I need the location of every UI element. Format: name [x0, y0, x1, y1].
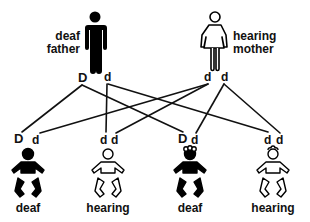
child2-label: hearing: [78, 202, 138, 215]
child3-label: deaf: [160, 202, 220, 215]
child4-label: hearing: [243, 202, 303, 215]
mother-label: hearing mother: [233, 30, 303, 56]
father-allele-1: D: [78, 72, 87, 84]
child4-baby-curly-icon: [257, 146, 289, 197]
line-mother-d2-to-child4-d: [224, 84, 280, 133]
line-father-d-to-child2-d: [106, 84, 107, 132]
mother-allele-2: d: [221, 71, 228, 83]
child2-baby-icon: [92, 149, 124, 197]
child1-allele-1: D: [14, 133, 23, 145]
father-label-line2: father: [40, 43, 80, 56]
child1-allele-2: d: [32, 134, 39, 146]
child4-allele-2: d: [276, 134, 283, 146]
child3-allele-1: D: [178, 133, 187, 145]
child1-label: deaf: [0, 202, 58, 215]
line-mother-d2-to-child3-d: [196, 84, 224, 133]
line-father-D-to-child1-D: [22, 85, 82, 132]
father-allele-2: d: [104, 71, 111, 83]
child2-allele-1: d: [100, 134, 107, 146]
child4-allele-1: d: [264, 134, 271, 146]
line-mother-d1-to-child1-d: [40, 84, 208, 133]
father-label: deaf father: [40, 30, 80, 56]
father-figure-icon: [85, 12, 107, 75]
child3-baby-curly-icon: [174, 146, 206, 197]
mother-allele-1: d: [204, 71, 211, 83]
child3-allele-2: d: [191, 134, 198, 146]
mother-figure-icon: [201, 12, 227, 71]
child1-baby-icon: [12, 149, 44, 198]
inheritance-lines: [22, 84, 280, 133]
mother-label-line2: mother: [233, 43, 303, 56]
child2-allele-2: d: [111, 134, 118, 146]
